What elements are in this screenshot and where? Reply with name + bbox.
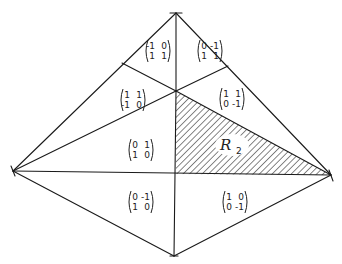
left-paren [129, 139, 131, 161]
matrix-entry: 0 [136, 100, 142, 110]
matrix-m1: -1011 [146, 40, 170, 62]
matrix-entry: -1 [146, 41, 155, 51]
matrix-entry: -1 [235, 202, 244, 212]
matrix-entry: 1 [226, 192, 232, 202]
matrix-m2: 0-111 [198, 40, 222, 62]
matrix-entry: 1 [144, 140, 150, 150]
matrix-m3: 11-10 [121, 89, 145, 111]
matrix-entry: 1 [161, 51, 167, 61]
right-paren [168, 40, 170, 62]
matrix-entry: 0 [223, 99, 229, 109]
matrix-m6: 0-110 [129, 191, 153, 213]
interior-edges [13, 13, 331, 256]
left-paren [129, 191, 131, 213]
left-paren [198, 40, 200, 62]
matrix-m5: 0110 [129, 139, 153, 161]
matrix-entry: 1 [235, 89, 241, 99]
left-paren [223, 191, 225, 213]
matrix-entry: 1 [149, 51, 155, 61]
matrix-entry: 0 [132, 140, 138, 150]
outer-edges [13, 13, 331, 256]
matrix-entry: 0 [238, 192, 244, 202]
r2-subscript: 2 [236, 146, 242, 156]
matrix-entry: -1 [210, 41, 219, 51]
matrix-entry: 0 [161, 41, 167, 51]
matrix-entry: -1 [121, 100, 130, 110]
matrix-entry: 1 [132, 150, 138, 160]
right-paren [245, 191, 247, 213]
matrix-entry: 0 [201, 41, 207, 51]
r2-label: R [219, 136, 231, 154]
vertex-marks [11, 13, 333, 256]
matrix-entry: 0 [226, 202, 232, 212]
fundamental-domain-diagram: R 2 -10110-11111-10110-101100-110100-1 [0, 0, 342, 264]
right-paren [242, 88, 244, 110]
right-paren [151, 191, 153, 213]
matrix-entry: 1 [213, 51, 219, 61]
right-paren [143, 89, 145, 111]
matrix-entry: 0 [144, 150, 150, 160]
matrix-m4: 110-1 [220, 88, 244, 110]
matrix-entry: -1 [141, 192, 150, 202]
right-paren [151, 139, 153, 161]
matrix-entry: 0 [144, 202, 150, 212]
matrix-entry: 1 [136, 90, 142, 100]
matrix-entry: 1 [201, 51, 207, 61]
matrix-entry: -1 [232, 99, 241, 109]
matrix-entry: 1 [223, 89, 229, 99]
left-paren [220, 88, 222, 110]
matrix-entry: 1 [124, 90, 130, 100]
matrix-entry: 0 [132, 192, 138, 202]
matrix-entry: 1 [132, 202, 138, 212]
matrix-m7: 100-1 [223, 191, 247, 213]
